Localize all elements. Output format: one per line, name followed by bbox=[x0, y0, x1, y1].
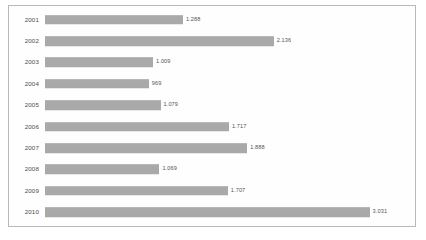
category-label: 2006 bbox=[9, 124, 45, 130]
bar-row: 2004969 bbox=[9, 73, 415, 94]
bar-row: 20061.717 bbox=[9, 116, 415, 137]
bar-row: 20103.031 bbox=[9, 202, 415, 223]
bar-track: 1.717 bbox=[45, 116, 415, 137]
bar-value-label: 1.009 bbox=[156, 60, 171, 66]
bar-track: 1.009 bbox=[45, 52, 415, 73]
category-label: 2008 bbox=[9, 166, 45, 172]
bar bbox=[45, 165, 159, 175]
bar bbox=[45, 101, 161, 111]
bar bbox=[45, 36, 274, 46]
bar bbox=[45, 79, 149, 89]
bar bbox=[45, 58, 153, 68]
bar-value-label: 1.707 bbox=[231, 188, 246, 194]
bar-track: 3.031 bbox=[45, 202, 415, 223]
category-label: 2003 bbox=[9, 59, 45, 65]
bar bbox=[45, 143, 247, 153]
bar-row: 20011.288 bbox=[9, 9, 415, 30]
bar-value-label: 3.031 bbox=[373, 209, 388, 215]
category-label: 2001 bbox=[9, 17, 45, 23]
bar-value-label: 1.288 bbox=[186, 17, 201, 23]
category-label: 2009 bbox=[9, 188, 45, 194]
category-label: 2004 bbox=[9, 81, 45, 87]
bar-track: 1.888 bbox=[45, 137, 415, 158]
bar-track: 1.079 bbox=[45, 95, 415, 116]
bar-row: 20051.079 bbox=[9, 95, 415, 116]
bar bbox=[45, 122, 229, 132]
bar bbox=[45, 208, 370, 218]
bar-track: 1.288 bbox=[45, 9, 415, 30]
bar-row: 20031.009 bbox=[9, 52, 415, 73]
bar-value-label: 1.888 bbox=[250, 145, 265, 151]
bar-row: 20081.069 bbox=[9, 159, 415, 180]
category-label: 2002 bbox=[9, 38, 45, 44]
bar-value-label: 1.069 bbox=[162, 167, 177, 173]
bar-track: 1.069 bbox=[45, 159, 415, 180]
bar bbox=[45, 186, 228, 196]
chart-frame: 20011.28820022.13620031.009200496920051.… bbox=[8, 5, 416, 227]
bar-value-label: 969 bbox=[152, 81, 162, 87]
bar-row: 20071.888 bbox=[9, 137, 415, 158]
bar-value-label: 2.136 bbox=[277, 38, 292, 44]
bar-value-label: 1.079 bbox=[164, 102, 179, 108]
bar-row: 20091.707 bbox=[9, 180, 415, 201]
category-label: 2010 bbox=[9, 209, 45, 215]
bar-row: 20022.136 bbox=[9, 30, 415, 51]
bar-track: 969 bbox=[45, 73, 415, 94]
bar bbox=[45, 15, 183, 25]
bar-value-label: 1.717 bbox=[232, 124, 247, 130]
bar-track: 2.136 bbox=[45, 30, 415, 51]
category-label: 2007 bbox=[9, 145, 45, 151]
plot-area: 20011.28820022.13620031.009200496920051.… bbox=[9, 6, 415, 226]
category-label: 2005 bbox=[9, 102, 45, 108]
bar-track: 1.707 bbox=[45, 180, 415, 201]
